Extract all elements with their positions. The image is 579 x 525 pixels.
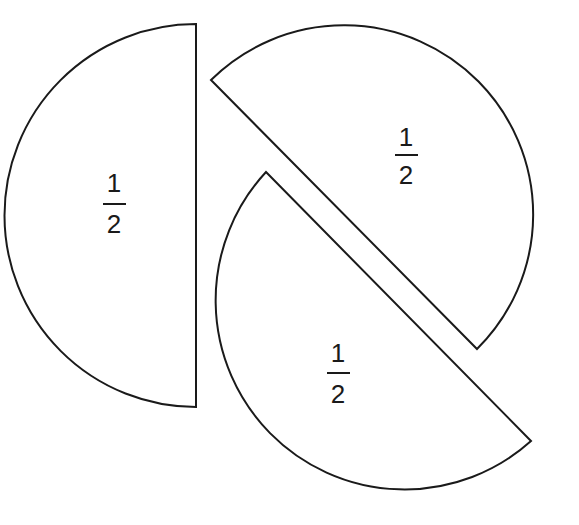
upper-right-half-denominator: 2	[399, 160, 413, 190]
left-half-shape	[4, 24, 196, 407]
lower-half-denominator: 2	[331, 379, 345, 409]
upper-right-half-numerator: 1	[399, 122, 413, 152]
piece-left-half: 1 2	[4, 24, 196, 407]
left-half-denominator: 2	[107, 209, 121, 239]
three-halves-diagram: 1 2 1 2 1 2	[0, 0, 579, 525]
left-half-numerator: 1	[107, 168, 121, 198]
lower-half-numerator: 1	[331, 338, 345, 368]
